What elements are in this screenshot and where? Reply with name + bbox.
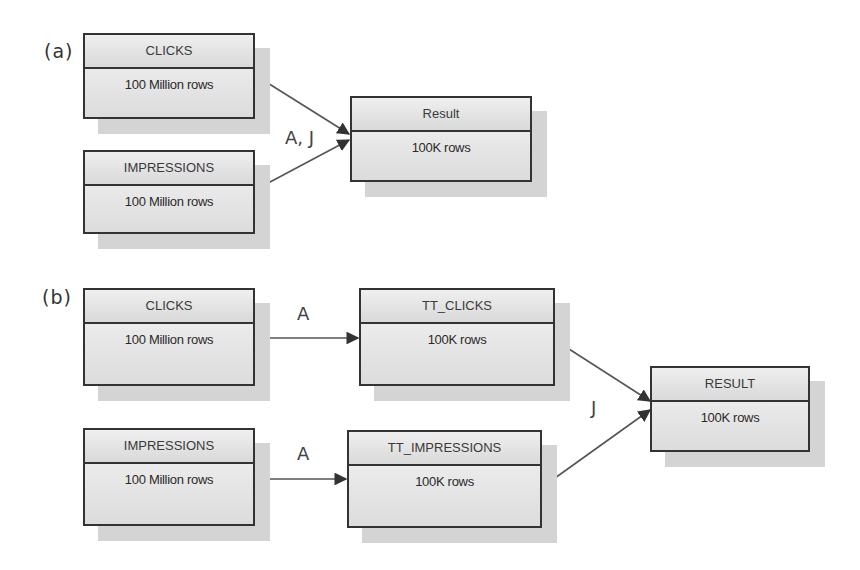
node-row-count: 100K rows <box>352 132 530 155</box>
node-box: IMPRESSIONS 100 Million rows <box>83 428 255 526</box>
node-a-impressions[interactable]: IMPRESSIONS 100 Million rows <box>83 150 255 234</box>
node-box: IMPRESSIONS 100 Million rows <box>83 150 255 234</box>
node-b-result[interactable]: RESULT 100K rows <box>650 366 810 452</box>
edge-label-a-impressions: A <box>297 443 309 464</box>
node-box: TT_IMPRESSIONS 100K rows <box>347 430 542 528</box>
node-row-count: 100 Million rows <box>85 464 253 487</box>
node-title: Result <box>352 98 530 132</box>
node-title: IMPRESSIONS <box>85 430 253 464</box>
edge-label-j: J <box>591 397 596 418</box>
panel-label-a: (a) <box>44 40 73 62</box>
node-row-count: 100 Million rows <box>85 324 253 347</box>
node-b-impressions[interactable]: IMPRESSIONS 100 Million rows <box>83 428 255 526</box>
node-box: RESULT 100K rows <box>650 366 810 452</box>
edge-label-a-clicks: A <box>297 303 309 324</box>
edge-label-a-j: A, J <box>285 127 314 148</box>
node-box: CLICKS 100 Million rows <box>83 288 255 386</box>
node-a-result[interactable]: Result 100K rows <box>350 96 532 182</box>
node-a-clicks[interactable]: CLICKS 100 Million rows <box>83 33 255 119</box>
node-title: TT_IMPRESSIONS <box>349 432 540 466</box>
node-box: Result 100K rows <box>350 96 532 182</box>
node-title: RESULT <box>652 368 808 402</box>
node-row-count: 100 Million rows <box>85 186 253 209</box>
node-b-clicks[interactable]: CLICKS 100 Million rows <box>83 288 255 386</box>
node-b-tt-impressions[interactable]: TT_IMPRESSIONS 100K rows <box>347 430 542 528</box>
node-row-count: 100K rows <box>652 402 808 425</box>
node-b-tt-clicks[interactable]: TT_CLICKS 100K rows <box>359 288 555 386</box>
edge-b-tt-impressions-to-result <box>555 410 650 478</box>
node-title: TT_CLICKS <box>361 290 553 324</box>
node-title: IMPRESSIONS <box>85 152 253 186</box>
node-title: CLICKS <box>85 290 253 324</box>
node-title: CLICKS <box>85 35 253 69</box>
node-box: CLICKS 100 Million rows <box>83 33 255 119</box>
panel-label-b: (b) <box>42 286 72 308</box>
node-row-count: 100K rows <box>349 466 540 489</box>
node-row-count: 100 Million rows <box>85 69 253 92</box>
node-row-count: 100K rows <box>361 324 553 347</box>
node-box: TT_CLICKS 100K rows <box>359 288 555 386</box>
